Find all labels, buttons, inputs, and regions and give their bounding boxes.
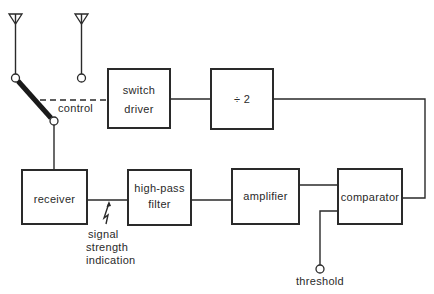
divide-by-two-block: ÷ 2 bbox=[211, 69, 273, 129]
antenna-2-icon bbox=[75, 14, 88, 82]
divide-by-two-label: ÷ 2 bbox=[234, 93, 250, 105]
lightning-arrow-icon bbox=[104, 201, 111, 224]
control-label: control bbox=[58, 102, 93, 114]
comparator-label: comparator bbox=[341, 191, 400, 203]
amplifier-block: amplifier bbox=[232, 169, 299, 224]
filter-label-2: filter bbox=[148, 198, 171, 210]
switch-lever-icon bbox=[18, 81, 58, 125]
high-pass-filter-block: high-pass filter bbox=[128, 170, 191, 225]
filter-label-1: high-pass bbox=[134, 182, 185, 194]
block-diagram: control switch driver ÷ 2 receiver signa… bbox=[0, 0, 434, 294]
receiver-block: receiver bbox=[22, 170, 87, 224]
amplifier-label: amplifier bbox=[243, 190, 287, 202]
threshold-label: threshold bbox=[296, 275, 344, 287]
switch-driver-label-2: driver bbox=[124, 103, 153, 115]
threshold-wire bbox=[320, 211, 338, 265]
signal-label-1: signal bbox=[88, 228, 119, 240]
switch-driver-block: switch driver bbox=[108, 69, 170, 128]
signal-label-2: strength bbox=[86, 241, 128, 253]
antenna-1-icon bbox=[9, 14, 22, 82]
receiver-label: receiver bbox=[34, 193, 76, 205]
signal-label-3: indication bbox=[86, 254, 135, 266]
comparator-block: comparator bbox=[338, 169, 402, 224]
threshold-terminal-icon bbox=[316, 265, 324, 273]
switch-driver-label-1: switch bbox=[123, 84, 155, 96]
